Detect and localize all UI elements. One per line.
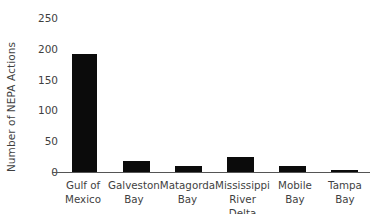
bar-slot-gulf-of-mexico <box>58 18 110 172</box>
y-tick-label-50: 50 <box>12 136 58 147</box>
x-tick-label-line2: Bay <box>320 192 370 206</box>
bar-series <box>58 18 370 172</box>
x-tick-label-line1: Mobile <box>278 179 312 191</box>
x-tick-label-line1: Matagorda <box>160 179 215 191</box>
x-tick-label-matagorda-bay: Matagorda Bay <box>160 175 215 213</box>
x-axis-line <box>58 172 370 173</box>
x-axis-tick-labels: Gulf of Mexico Galveston Bay Matagorda B… <box>58 175 370 213</box>
x-tick-label-tampa-bay: Tampa Bay <box>320 175 370 213</box>
bar-chart: Number of NEPA Actions 0 50 100 150 200 … <box>0 0 377 214</box>
plot-area <box>58 18 370 172</box>
x-tick-label-line1: Tampa <box>328 179 362 191</box>
x-tick-label-line1: Galveston <box>108 179 160 191</box>
bar-slot-mobile-bay <box>266 18 318 172</box>
x-tick-label-line2: River Delta <box>215 192 270 214</box>
x-tick-label-line1: Mississippi <box>215 179 270 191</box>
x-tick-label-line1: Gulf of <box>66 179 100 191</box>
y-tick-label-100: 100 <box>12 105 58 116</box>
y-tick-label-250: 250 <box>12 13 58 24</box>
bar-slot-galveston-bay <box>110 18 162 172</box>
y-tick-label-150: 150 <box>12 74 58 85</box>
bar-mississippi-river-delta <box>227 157 254 172</box>
x-tick-label-line2: Mexico <box>58 192 108 206</box>
bar-galveston-bay <box>123 161 150 172</box>
x-tick-label-mobile-bay: Mobile Bay <box>270 175 320 213</box>
x-tick-label-line2: Bay <box>108 192 160 206</box>
bar-slot-tampa-bay <box>318 18 370 172</box>
y-axis-tick-labels: 0 50 100 150 200 250 <box>12 0 58 214</box>
y-tick-label-200: 200 <box>12 44 58 55</box>
x-tick-label-gulf-of-mexico: Gulf of Mexico <box>58 175 108 213</box>
x-tick-label-line2: Bay <box>270 192 320 206</box>
bar-slot-mississippi-river-delta <box>214 18 266 172</box>
x-tick-label-line2: Bay <box>160 192 215 206</box>
x-tick-label-galveston-bay: Galveston Bay <box>108 175 160 213</box>
bar-gulf-of-mexico <box>72 54 97 172</box>
bar-slot-matagorda-bay <box>162 18 214 172</box>
x-tick-label-mississippi-river-delta: Mississippi River Delta <box>215 175 270 213</box>
